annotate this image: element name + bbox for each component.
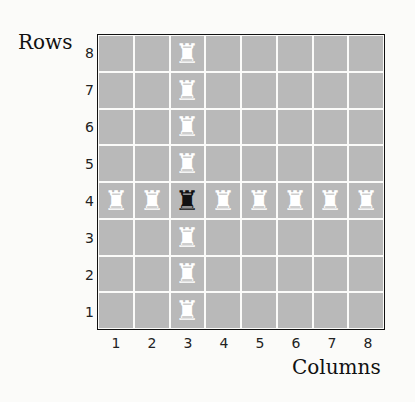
board-square <box>349 257 383 292</box>
row-number-label: 2 <box>80 267 94 283</box>
white-rook-icon: ♜ <box>171 220 205 255</box>
board-square <box>99 36 133 71</box>
board-square <box>99 146 133 181</box>
black-rook-icon: ♜ <box>171 183 205 218</box>
white-rook-icon: ♜ <box>171 257 205 292</box>
row-number-label: 1 <box>80 304 94 320</box>
row-number-label: 6 <box>80 119 94 135</box>
board-square <box>314 293 348 328</box>
column-number-label: 5 <box>250 335 270 351</box>
board-square <box>349 293 383 328</box>
board-square <box>135 257 169 292</box>
board-square <box>314 220 348 255</box>
board-square <box>278 220 312 255</box>
white-rook-icon: ♜ <box>278 183 312 218</box>
board-square <box>242 73 276 108</box>
row-number-label: 8 <box>80 45 94 61</box>
board-square <box>135 110 169 145</box>
board-square <box>314 73 348 108</box>
board-square <box>135 293 169 328</box>
white-rook-icon: ♜ <box>314 183 348 218</box>
board-square <box>349 73 383 108</box>
board-square <box>314 110 348 145</box>
board-square <box>135 36 169 71</box>
column-number-label: 7 <box>322 335 342 351</box>
board-square <box>242 110 276 145</box>
row-number-label: 3 <box>80 230 94 246</box>
column-number-label: 8 <box>358 335 378 351</box>
board-square <box>135 220 169 255</box>
board-square <box>242 257 276 292</box>
board-square <box>99 293 133 328</box>
rows-axis-label: Rows <box>18 30 72 54</box>
white-rook-icon: ♜ <box>242 183 276 218</box>
board-square <box>278 73 312 108</box>
row-number-label: 4 <box>80 193 94 209</box>
board-square <box>349 220 383 255</box>
board-square <box>99 220 133 255</box>
white-rook-icon: ♜ <box>171 73 205 108</box>
board-square <box>314 257 348 292</box>
white-rook-icon: ♜ <box>135 183 169 218</box>
board-square <box>206 146 240 181</box>
board-square <box>206 110 240 145</box>
white-rook-icon: ♜ <box>349 183 383 218</box>
board-square <box>278 293 312 328</box>
board-square <box>135 146 169 181</box>
column-number-label: 1 <box>106 335 126 351</box>
white-rook-icon: ♜ <box>99 183 133 218</box>
board-square <box>99 110 133 145</box>
columns-axis-label: Columns <box>292 355 381 379</box>
board-square <box>99 73 133 108</box>
board-square <box>99 257 133 292</box>
board-square <box>278 257 312 292</box>
board-square <box>349 146 383 181</box>
white-rook-icon: ♜ <box>206 183 240 218</box>
board-square <box>314 36 348 71</box>
column-number-label: 6 <box>286 335 306 351</box>
board-square <box>206 73 240 108</box>
board-square <box>278 110 312 145</box>
white-rook-icon: ♜ <box>171 110 205 145</box>
board-square <box>278 36 312 71</box>
board-square <box>206 220 240 255</box>
column-number-label: 2 <box>142 335 162 351</box>
board-square <box>278 146 312 181</box>
column-number-label: 3 <box>178 335 198 351</box>
row-number-label: 7 <box>80 82 94 98</box>
white-rook-icon: ♜ <box>171 36 205 71</box>
board-square <box>206 36 240 71</box>
board-square <box>349 110 383 145</box>
board-square <box>242 146 276 181</box>
board-square <box>242 36 276 71</box>
row-number-label: 5 <box>80 156 94 172</box>
white-rook-icon: ♜ <box>171 146 205 181</box>
board-square <box>135 73 169 108</box>
board-square <box>242 220 276 255</box>
board-square <box>314 146 348 181</box>
white-rook-icon: ♜ <box>171 293 205 328</box>
board-square <box>206 293 240 328</box>
board-square <box>349 36 383 71</box>
chess-board: ♜♜♜♜♜♜♜♜♜♜♜♜♜♜♜ <box>97 34 385 330</box>
board-square <box>206 257 240 292</box>
column-number-label: 4 <box>214 335 234 351</box>
board-square <box>242 293 276 328</box>
